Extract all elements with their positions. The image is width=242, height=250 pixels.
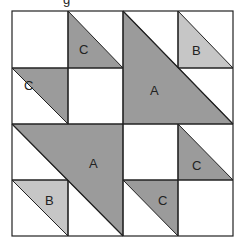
label-c-top-1: C: [79, 42, 88, 57]
label-b-top: B: [192, 43, 201, 58]
quilt-block-diagram: g C C A B A B C C: [0, 0, 242, 250]
title-fragment: g: [63, 0, 70, 7]
label-c-bottom-2: C: [158, 193, 167, 208]
label-c-bottom-1: C: [192, 158, 201, 173]
label-b-bottom: B: [45, 193, 54, 208]
label-a-bottom: A: [89, 156, 98, 171]
label-a-top: A: [150, 83, 159, 98]
label-c-top-2: C: [24, 78, 33, 93]
